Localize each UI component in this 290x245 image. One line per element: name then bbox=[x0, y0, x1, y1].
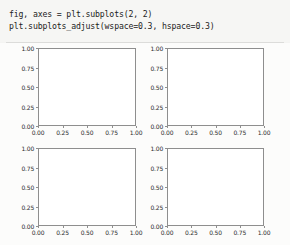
y-tick-mark bbox=[165, 107, 167, 108]
y-tick-label: 0.00 bbox=[150, 223, 163, 230]
x-tick-label: 0.00 bbox=[32, 229, 45, 236]
y-tick-mark bbox=[165, 48, 167, 49]
y-tick-mark bbox=[36, 107, 38, 108]
x-tick-label: 0.00 bbox=[161, 229, 174, 236]
y-tick-label: 0.00 bbox=[150, 123, 163, 130]
x-tick-label: 0.00 bbox=[161, 129, 174, 136]
y-tick-mark bbox=[165, 187, 167, 188]
code-line-1: fig, axes = plt.subplots(2, 2) bbox=[9, 9, 290, 21]
subplot-row-1-col-0: 0.000.250.500.751.000.000.250.500.751.00 bbox=[38, 148, 136, 226]
y-tick-mark bbox=[165, 168, 167, 169]
y-tick-label: 0.00 bbox=[21, 223, 34, 230]
y-tick-label: 0.25 bbox=[21, 103, 34, 110]
y-tick-mark bbox=[36, 226, 38, 227]
axes-frame bbox=[167, 48, 264, 126]
x-tick-label: 0.25 bbox=[56, 129, 69, 136]
x-tick-label: 0.75 bbox=[233, 129, 246, 136]
x-tick-label: 0.50 bbox=[209, 129, 222, 136]
y-tick-mark bbox=[36, 168, 38, 169]
x-tick-label: 0.75 bbox=[105, 129, 118, 136]
axes-frame bbox=[38, 48, 136, 126]
y-tick-label: 0.25 bbox=[150, 203, 163, 210]
y-tick-mark bbox=[165, 207, 167, 208]
subplot-row-1-col-1: 0.000.250.500.751.000.000.250.500.751.00 bbox=[167, 148, 264, 226]
y-tick-label: 0.00 bbox=[21, 123, 34, 130]
y-tick-mark bbox=[36, 68, 38, 69]
y-tick-mark bbox=[165, 126, 167, 127]
y-tick-label: 0.50 bbox=[21, 84, 34, 91]
y-tick-mark bbox=[165, 148, 167, 149]
notebook-page: fig, axes = plt.subplots(2, 2) plt.subpl… bbox=[0, 0, 290, 245]
y-tick-mark bbox=[36, 126, 38, 127]
axes-frame bbox=[38, 148, 136, 226]
y-tick-mark bbox=[36, 87, 38, 88]
x-tick-label: 0.25 bbox=[185, 129, 198, 136]
y-tick-label: 1.00 bbox=[150, 145, 163, 152]
y-tick-label: 0.75 bbox=[21, 64, 34, 71]
y-tick-label: 1.00 bbox=[150, 45, 163, 52]
code-cell[interactable]: fig, axes = plt.subplots(2, 2) plt.subpl… bbox=[0, 0, 290, 42]
y-tick-mark bbox=[165, 226, 167, 227]
y-tick-mark bbox=[165, 87, 167, 88]
y-tick-label: 1.00 bbox=[21, 45, 34, 52]
y-tick-mark bbox=[36, 207, 38, 208]
y-tick-label: 0.50 bbox=[21, 184, 34, 191]
x-tick-label: 0.75 bbox=[233, 229, 246, 236]
y-tick-label: 0.25 bbox=[21, 203, 34, 210]
axes-frame bbox=[167, 148, 264, 226]
y-tick-mark bbox=[36, 48, 38, 49]
x-tick-label: 1.00 bbox=[130, 229, 143, 236]
y-tick-mark bbox=[165, 68, 167, 69]
y-tick-label: 0.50 bbox=[150, 184, 163, 191]
x-tick-label: 1.00 bbox=[130, 129, 143, 136]
x-tick-label: 1.00 bbox=[258, 229, 271, 236]
code-line-2: plt.subplots_adjust(wspace=0.3, hspace=0… bbox=[9, 21, 290, 33]
subplot-row-0-col-1: 0.000.250.500.751.000.000.250.500.751.00 bbox=[167, 48, 264, 126]
y-tick-label: 0.50 bbox=[150, 84, 163, 91]
x-tick-label: 0.75 bbox=[105, 229, 118, 236]
x-tick-label: 1.00 bbox=[258, 129, 271, 136]
y-tick-mark bbox=[36, 187, 38, 188]
x-tick-label: 0.50 bbox=[209, 229, 222, 236]
x-tick-label: 0.50 bbox=[81, 229, 94, 236]
y-tick-label: 0.75 bbox=[150, 164, 163, 171]
figure-output: 0.000.250.500.751.000.000.250.500.751.00… bbox=[0, 43, 290, 245]
x-tick-label: 0.25 bbox=[56, 229, 69, 236]
subplot-row-0-col-0: 0.000.250.500.751.000.000.250.500.751.00 bbox=[38, 48, 136, 126]
y-tick-label: 0.75 bbox=[150, 64, 163, 71]
y-tick-label: 0.75 bbox=[21, 164, 34, 171]
y-tick-label: 0.25 bbox=[150, 103, 163, 110]
y-tick-label: 1.00 bbox=[21, 145, 34, 152]
x-tick-label: 0.50 bbox=[81, 129, 94, 136]
x-tick-label: 0.00 bbox=[32, 129, 45, 136]
x-tick-label: 0.25 bbox=[185, 229, 198, 236]
y-tick-mark bbox=[36, 148, 38, 149]
